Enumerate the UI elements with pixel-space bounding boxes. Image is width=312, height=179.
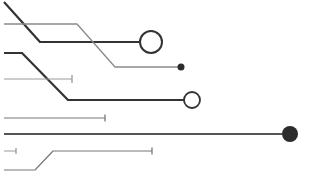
circuit-illustration — [0, 0, 312, 179]
hollow-node-icon — [140, 31, 162, 53]
trace-8 — [4, 148, 152, 171]
filled-node-icon — [282, 126, 298, 142]
trace-6 — [4, 126, 298, 142]
trace-5 — [4, 115, 105, 122]
filled-node-icon — [178, 64, 185, 71]
trace-line — [4, 151, 152, 170]
circuit-svg — [0, 0, 312, 179]
trace-4 — [4, 75, 72, 83]
hollow-node-icon — [184, 92, 200, 108]
trace-line — [4, 53, 184, 100]
trace-line — [4, 2, 140, 42]
trace-7 — [4, 148, 16, 154]
trace-1 — [4, 2, 162, 53]
trace-3 — [4, 53, 200, 108]
